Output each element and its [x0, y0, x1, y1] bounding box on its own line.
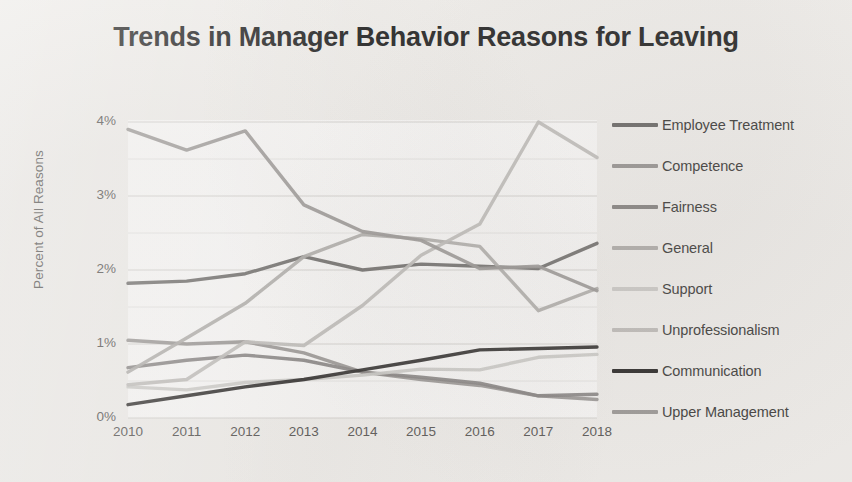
legend-item[interactable]: Upper Management	[612, 391, 852, 432]
x-axis-tick-label: 2014	[337, 424, 389, 439]
legend-item[interactable]: Unprofessionalism	[612, 309, 852, 350]
y-axis-tick-label: 4%	[76, 113, 116, 128]
legend-item-label: Upper Management	[662, 404, 789, 420]
legend-line-swatch-icon	[612, 328, 658, 332]
legend-item[interactable]: Employee Treatment	[612, 104, 852, 145]
legend-item[interactable]: Fairness	[612, 186, 852, 227]
legend-line-swatch-icon	[612, 287, 658, 291]
x-axis-tick-label: 2016	[454, 424, 506, 439]
x-axis-tick-label: 2015	[395, 424, 447, 439]
legend-item-label: Support	[662, 281, 712, 297]
legend-item-label: Fairness	[662, 199, 717, 215]
y-axis-tick-label: 3%	[76, 187, 116, 202]
y-axis-tick-label: 2%	[76, 261, 116, 276]
x-axis-tick-label: 2011	[161, 424, 213, 439]
chart-legend: Employee TreatmentCompetenceFairnessGene…	[612, 104, 852, 432]
x-axis-tick-label: 2017	[512, 424, 564, 439]
chart-figure: Trends in Manager Behavior Reasons for L…	[0, 0, 852, 482]
legend-item-label: General	[662, 240, 713, 256]
legend-item[interactable]: General	[612, 227, 852, 268]
x-axis-tick-label: 2012	[219, 424, 271, 439]
y-axis-tick-label: 0%	[76, 409, 116, 424]
x-axis-tick-label: 2010	[102, 424, 154, 439]
legend-line-swatch-icon	[612, 123, 658, 127]
legend-item-label: Employee Treatment	[662, 117, 794, 133]
x-axis-tick-label: 2013	[278, 424, 330, 439]
legend-line-swatch-icon	[612, 205, 658, 209]
legend-item[interactable]: Communication	[612, 350, 852, 391]
legend-line-swatch-icon	[612, 164, 658, 168]
legend-item-label: Competence	[662, 158, 743, 174]
legend-item-label: Communication	[662, 363, 761, 379]
legend-line-swatch-icon	[612, 410, 658, 414]
legend-line-swatch-icon	[612, 369, 658, 373]
legend-item[interactable]: Competence	[612, 145, 852, 186]
legend-item-label: Unprofessionalism	[662, 322, 780, 338]
y-axis-tick-label: 1%	[76, 335, 116, 350]
legend-line-swatch-icon	[612, 246, 658, 250]
legend-item[interactable]: Support	[612, 268, 852, 309]
